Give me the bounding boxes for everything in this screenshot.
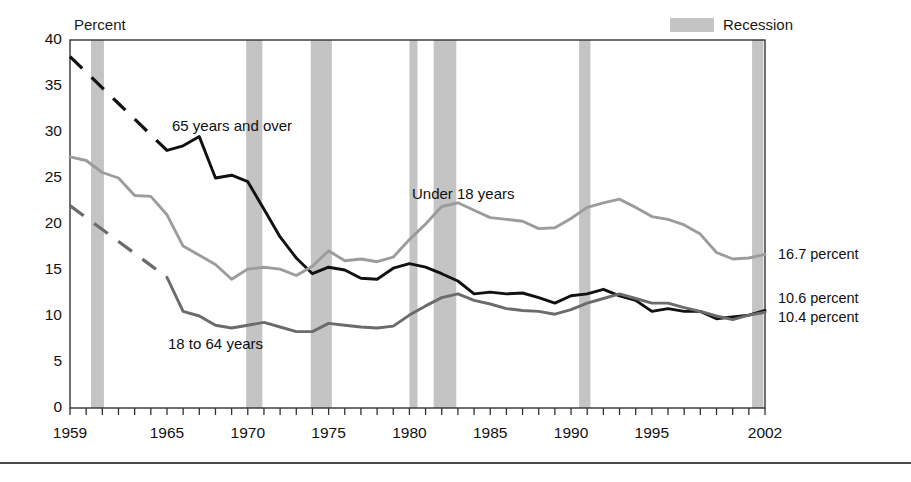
series-label-over65: 65 years and over — [172, 117, 292, 134]
x-axis-tick-label: 1985 — [473, 424, 507, 442]
chart-page: Percent Recession 65 years and over Unde… — [0, 0, 911, 482]
recession-band — [409, 40, 417, 408]
x-axis-tick-label: 1965 — [150, 424, 184, 442]
y-axis-tick-label: 5 — [28, 352, 62, 370]
x-axis-tick-label: 1970 — [231, 424, 265, 442]
y-axis-tick-label: 0 — [28, 398, 62, 416]
legend: Recession — [670, 16, 793, 33]
x-axis-tick-label: 2002 — [748, 424, 782, 442]
end-value-under18: 16.7 percent — [778, 246, 859, 262]
series-label-under18: Under 18 years — [412, 185, 515, 202]
y-axis-tick-label: 15 — [28, 260, 62, 278]
x-axis-tick-label: 1975 — [311, 424, 345, 442]
x-axis-tick-label: 1990 — [554, 424, 588, 442]
recession-band — [579, 40, 590, 408]
x-axis-tick-label: 1980 — [392, 424, 426, 442]
y-axis-tick-label: 20 — [28, 214, 62, 232]
legend-label-recession: Recession — [723, 16, 793, 33]
x-axis-tick-label: 1995 — [635, 424, 669, 442]
recession-swatch-icon — [670, 18, 714, 32]
y-axis-title: Percent — [74, 16, 126, 33]
x-axis-tick-label: 1959 — [53, 424, 87, 442]
series-line-dashed — [70, 206, 167, 278]
recession-band — [752, 40, 763, 408]
y-axis-tick-label: 10 — [28, 306, 62, 324]
end-value-over65: 10.6 percent — [778, 290, 859, 306]
y-axis-tick-label: 25 — [28, 168, 62, 186]
series-line-dashed — [70, 57, 167, 151]
poverty-rate-line-chart — [0, 0, 911, 482]
recession-band — [434, 40, 457, 408]
y-axis-tick-label: 30 — [28, 122, 62, 140]
footer-divider — [0, 462, 911, 464]
y-axis-tick-label: 35 — [28, 76, 62, 94]
recession-band — [311, 40, 332, 408]
end-value-adults: 10.4 percent — [778, 309, 859, 325]
recession-band — [246, 40, 262, 408]
y-axis-tick-label: 40 — [28, 30, 62, 48]
series-label-adults: 18 to 64 years — [168, 335, 263, 352]
